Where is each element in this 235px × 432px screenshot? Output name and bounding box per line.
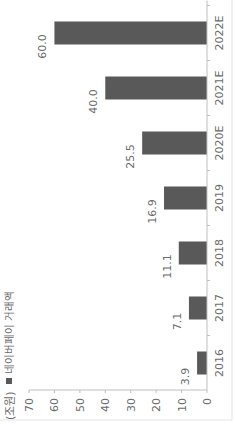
bar-2018	[179, 242, 207, 265]
bar-chart: (조원) 네이버페이 거래액 010203040506070 3.97.111.…	[0, 0, 235, 432]
value-tick-label: 20	[150, 398, 163, 412]
rotated-chart-stage: (조원) 네이버페이 거래액 010203040506070 3.97.111.…	[0, 0, 235, 432]
bar-value-label: 3.9	[179, 368, 192, 386]
value-tick-label: 30	[125, 398, 138, 412]
bars-group: 3.97.111.116.925.540.060.0	[36, 22, 207, 386]
legend-swatch	[6, 378, 12, 384]
bar-2019	[164, 187, 207, 210]
category-label: 2022E	[213, 15, 226, 50]
category-label: 2016	[213, 349, 226, 377]
bar-2020E	[142, 132, 207, 155]
bar-2021E	[105, 77, 207, 100]
category-label: 2020E	[213, 125, 226, 160]
category-label: 2021E	[213, 70, 226, 105]
value-tick-label: 60	[48, 398, 61, 412]
bar-2022E	[54, 22, 207, 45]
bar-2017	[189, 297, 207, 320]
category-label: 2018	[213, 239, 226, 267]
value-tick-label: 0	[201, 398, 214, 405]
bar-value-label: 7.1	[171, 313, 184, 331]
category-label: 2019	[213, 184, 226, 212]
legend-label: 네이버페이 거래액	[3, 291, 15, 374]
bar-value-label: 11.1	[161, 254, 174, 279]
unit-label: (조원)	[4, 391, 17, 420]
value-tick-label: 70	[23, 398, 36, 412]
bar-value-label: 40.0	[87, 89, 100, 114]
bar-value-label: 25.5	[124, 144, 137, 169]
legend: 네이버페이 거래액	[3, 291, 15, 384]
category-label: 2017	[213, 294, 226, 322]
bar-value-label: 16.9	[146, 199, 159, 224]
bar-value-label: 60.0	[36, 34, 49, 59]
value-axis: 010203040506070	[23, 390, 214, 412]
category-axis: 20162017201820192020E2021E2022E	[207, 1, 226, 391]
value-tick-label: 40	[99, 398, 112, 412]
value-tick-label: 10	[176, 398, 189, 412]
bar-2016	[197, 352, 207, 375]
value-tick-label: 50	[74, 398, 87, 412]
